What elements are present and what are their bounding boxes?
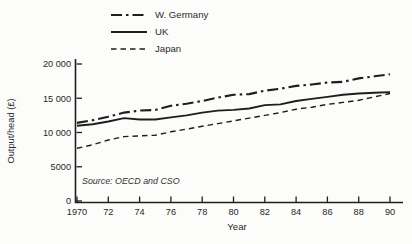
y-tick-label: 0 bbox=[66, 196, 71, 206]
source-note: Source: OECD and CSO bbox=[82, 176, 180, 186]
x-tick-label: 88 bbox=[354, 207, 364, 217]
x-tick-label: 76 bbox=[166, 207, 176, 217]
series-line-w-germany bbox=[77, 74, 390, 123]
series-line-uk bbox=[77, 92, 390, 126]
x-tick-label: 78 bbox=[197, 207, 207, 217]
plot-area: 0500010 00015 00020 00019707274767880828… bbox=[0, 0, 412, 244]
chart-figure: W. Germany UK Japan Output/head (£) 0500… bbox=[0, 0, 412, 244]
y-tick-label: 10 000 bbox=[43, 128, 71, 138]
x-tick-label: 84 bbox=[291, 207, 301, 217]
y-tick-label: 15 000 bbox=[43, 94, 71, 104]
x-tick-label: 72 bbox=[103, 207, 113, 217]
y-tick-label: 20 000 bbox=[43, 59, 71, 69]
x-tick-label: 1970 bbox=[67, 207, 87, 217]
x-tick-label: 82 bbox=[260, 207, 270, 217]
x-tick-label: 90 bbox=[385, 207, 395, 217]
series-line-japan bbox=[77, 94, 390, 149]
x-tick-label: 86 bbox=[322, 207, 332, 217]
x-tick-label: 80 bbox=[228, 207, 238, 217]
y-tick-label: 5000 bbox=[51, 162, 71, 172]
x-axis-title: Year bbox=[227, 221, 246, 232]
x-tick-label: 74 bbox=[134, 207, 144, 217]
